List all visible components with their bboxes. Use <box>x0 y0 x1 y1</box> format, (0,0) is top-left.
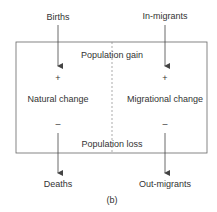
natural-change-label: Natural change <box>27 94 88 104</box>
figure-caption: (b) <box>107 195 118 205</box>
natural-plus-sign: + <box>55 73 60 83</box>
deaths-label: Deaths <box>44 179 73 189</box>
natural-minus-sign: – <box>55 119 60 129</box>
in-migrants-label: In-migrants <box>142 11 187 21</box>
population-gain-label: Population gain <box>81 50 143 60</box>
out-migrants-label: Out-migrants <box>139 179 191 189</box>
migrational-change-label: Migrational change <box>127 94 203 104</box>
migrational-plus-sign: + <box>162 73 167 83</box>
population-loss-label: Population loss <box>81 139 142 149</box>
births-label: Births <box>46 12 69 22</box>
migrational-minus-sign: – <box>162 119 167 129</box>
